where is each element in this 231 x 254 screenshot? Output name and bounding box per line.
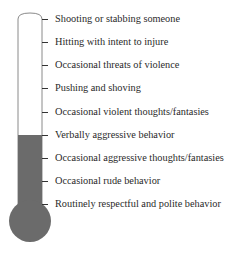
level-label: Occasional aggressive thoughts/fantasies: [55, 152, 224, 164]
tick-marks: [42, 20, 48, 205]
level-label: Occasional threats of violence: [55, 59, 179, 71]
level-label: Routinely respectful and polite behavior: [55, 198, 221, 210]
level-label: Occasional rude behavior: [55, 175, 160, 187]
level-label: Hitting with intent to injure: [55, 36, 168, 48]
level-label: Shooting or stabbing someone: [55, 13, 180, 25]
level-label: Occasional violent thoughts/fantasies: [55, 106, 209, 118]
level-label: Pushing and shoving: [55, 82, 141, 94]
level-label: Verbally aggressive behavior: [55, 129, 175, 141]
thermometer-bulb: [9, 200, 51, 242]
